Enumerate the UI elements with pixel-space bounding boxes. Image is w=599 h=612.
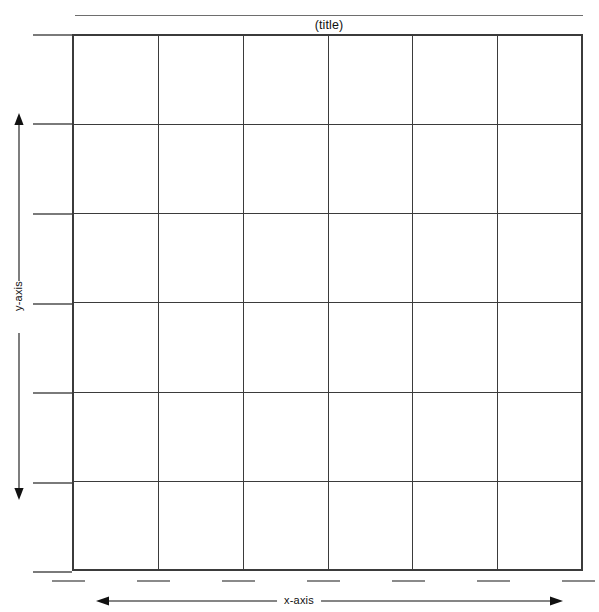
x-axis-tick (222, 580, 255, 582)
grid-cell[interactable] (159, 36, 244, 125)
y-axis-tick (33, 123, 72, 125)
grid-cell[interactable] (329, 393, 414, 482)
graph-template-page: (title) y-axis (0, 0, 599, 612)
grid-cell[interactable] (329, 125, 414, 214)
plot-grid[interactable] (72, 34, 583, 571)
grid-cell[interactable] (244, 482, 329, 571)
y-axis-tick (33, 482, 72, 484)
grid-cell[interactable] (244, 393, 329, 482)
x-axis-arrow (96, 594, 563, 608)
grid-cell[interactable] (244, 303, 329, 392)
grid-cell[interactable] (413, 214, 498, 303)
grid-cell[interactable] (498, 303, 583, 392)
title-rule (75, 15, 583, 16)
grid-cell[interactable] (159, 393, 244, 482)
y-axis-tick (33, 213, 72, 215)
grid-cell[interactable] (329, 214, 414, 303)
x-axis-tick (52, 580, 85, 582)
y-axis-tick (33, 571, 72, 573)
x-axis-label: x-axis (277, 593, 321, 607)
grid-cell[interactable] (74, 303, 159, 392)
grid-cell[interactable] (244, 214, 329, 303)
grid-cell[interactable] (329, 482, 414, 571)
x-axis-tick (307, 580, 340, 582)
grid-cell[interactable] (329, 303, 414, 392)
y-axis-label: y-axis (12, 266, 24, 326)
grid-cell[interactable] (329, 36, 414, 125)
grid-cell[interactable] (74, 393, 159, 482)
grid-cell[interactable] (244, 125, 329, 214)
grid-cell[interactable] (74, 214, 159, 303)
x-axis-tick (477, 580, 510, 582)
page-title: (title) (75, 18, 583, 32)
grid-cell[interactable] (413, 36, 498, 125)
grid-cell[interactable] (498, 393, 583, 482)
grid-cell[interactable] (498, 214, 583, 303)
grid-cell[interactable] (498, 482, 583, 571)
grid-cell[interactable] (498, 36, 583, 125)
grid-cell[interactable] (413, 125, 498, 214)
grid-cell[interactable] (159, 303, 244, 392)
grid-cell[interactable] (413, 303, 498, 392)
grid-cell[interactable] (159, 214, 244, 303)
y-axis-tick (33, 303, 72, 305)
grid-cell[interactable] (413, 482, 498, 571)
x-axis-tick (392, 580, 425, 582)
y-axis-tick (33, 392, 72, 394)
grid-cell[interactable] (159, 125, 244, 214)
grid-cell[interactable] (498, 125, 583, 214)
x-axis-tick (137, 580, 170, 582)
grid-cell[interactable] (74, 125, 159, 214)
x-axis-tick (562, 580, 595, 582)
grid-cell[interactable] (74, 482, 159, 571)
grid-cell[interactable] (413, 393, 498, 482)
grid-cell[interactable] (244, 36, 329, 125)
grid-cell[interactable] (74, 36, 159, 125)
y-axis-tick (33, 34, 72, 36)
grid-cell[interactable] (159, 482, 244, 571)
